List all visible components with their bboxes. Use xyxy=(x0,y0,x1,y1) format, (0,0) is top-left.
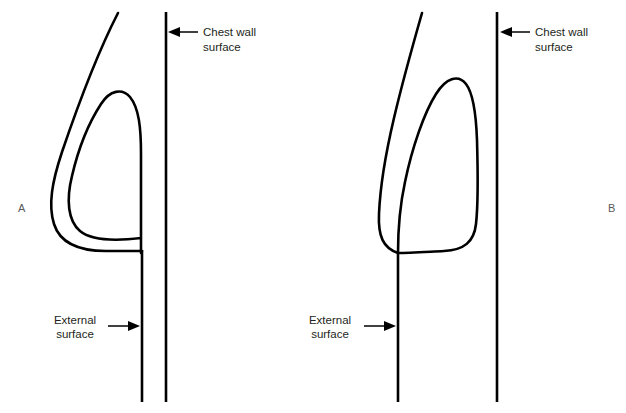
panel-b: Chest wall surface External surface B xyxy=(309,12,615,402)
panel-a-chest-wall-arrow xyxy=(168,27,198,37)
panel-a-external-surface-label-line2: surface xyxy=(56,328,94,340)
panel-a-chest-wall-label-line2: surface xyxy=(203,41,241,53)
panel-a: Chest wall surface External surface A xyxy=(18,12,256,402)
panel-a-chest-wall-label-line1: Chest wall xyxy=(203,26,256,38)
panel-b-parenchyma-contour xyxy=(398,79,478,253)
panel-b-external-surface-label-line1: External xyxy=(309,314,351,326)
panel-b-external-surface-arrow xyxy=(364,321,396,331)
panel-a-external-surface-label-line1: External xyxy=(54,314,96,326)
panel-b-chest-wall-label-line2: surface xyxy=(535,41,573,53)
panel-a-letter: A xyxy=(18,202,26,214)
panel-b-external-surface-label-line2: surface xyxy=(311,328,349,340)
panel-a-parenchyma-contour xyxy=(69,92,141,253)
breast-profile-diagram: Chest wall surface External surface A Ch… xyxy=(0,0,626,413)
panel-a-skin-contour xyxy=(51,13,142,251)
panel-b-chest-wall-arrow xyxy=(500,27,530,37)
panel-b-chest-wall-label-line1: Chest wall xyxy=(535,26,588,38)
panel-b-letter: B xyxy=(608,202,615,214)
panel-a-external-surface-arrow xyxy=(108,321,140,331)
